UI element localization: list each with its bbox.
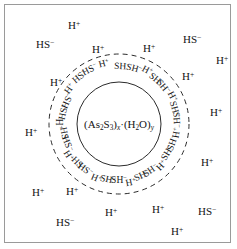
nucleus-formula-label: (As2S3)x·(H2O)y [84, 119, 154, 130]
micelle-diagram: H+HS−HS−H+HS−HS−H+HS−HS−H+HS−HS−H+SH−SH−… [5, 5, 232, 244]
diffuse-ion-hydrogen: H+ [171, 226, 183, 237]
diffuse-ion-hydrogen: H+ [68, 20, 80, 31]
diffuse-ion-hydrogen: H+ [210, 107, 222, 118]
figure-panel: H+HS−HS−H+HS−HS−H+HS−HS−H+HS−HS−H+SH−SH−… [4, 4, 231, 243]
diffuse-ion-hydrogen: H+ [66, 186, 78, 197]
diffuse-ion-hydrogen: H+ [152, 204, 164, 215]
diffuse-ion-hydrogen: H+ [105, 207, 117, 218]
diffuse-ion-hydrogen: H+ [50, 77, 62, 88]
diffuse-ion-hydrogen: H+ [143, 43, 155, 54]
adsorbed-ion-hydrosulfide: SH− [114, 62, 130, 72]
diffuse-ion-hydrosulfide: HS− [198, 206, 216, 217]
diffuse-ion-hydrogen: H+ [25, 127, 37, 138]
diffuse-ion-hydrogen: H+ [216, 55, 228, 66]
diffuse-ion-hydrogen: H+ [92, 44, 104, 55]
diffuse-ion-hydrosulfide: HS− [56, 217, 74, 228]
diffuse-ion-hydrogen: H+ [32, 187, 44, 198]
diffuse-ion-hydrosulfide: HS− [183, 34, 201, 45]
diffuse-ion-hydrosulfide: HS− [36, 39, 54, 50]
diffuse-ion-hydrogen: H+ [182, 71, 194, 82]
diffuse-ion-hydrogen: H+ [201, 157, 213, 168]
